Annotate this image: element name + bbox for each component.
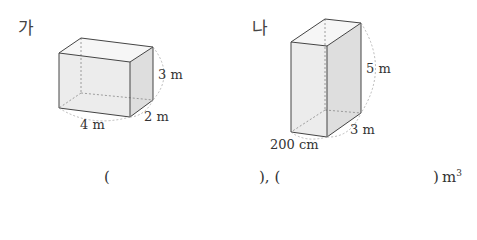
answer-close-paren-2: )	[433, 168, 439, 186]
dim-na-depth: 3 m	[350, 122, 375, 137]
dim-ga-width: 4 m	[80, 117, 105, 132]
dim-ga-height: 3 m	[158, 67, 183, 82]
dim-na-width: 200 cm	[270, 137, 319, 152]
answer-blank-na[interactable]	[288, 168, 438, 188]
answer-separator: ), (	[259, 168, 280, 186]
dim-ga-depth: 2 m	[144, 109, 169, 124]
unit-exponent: 3	[456, 168, 462, 178]
unit-base: m	[442, 168, 456, 186]
answer-unit: m3	[442, 168, 462, 186]
dim-na-height: 5 m	[366, 61, 391, 76]
answer-blank-ga[interactable]	[101, 168, 281, 188]
